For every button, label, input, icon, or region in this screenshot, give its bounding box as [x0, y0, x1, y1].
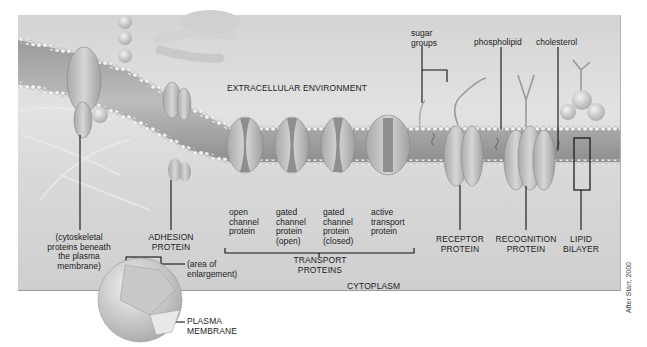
phospholipid-label: phospholipid [474, 38, 522, 48]
cytoskeletal-proteins-label: (cytoskeletal proteins beneath the plasm… [40, 233, 118, 271]
gated-channel-open-label: gated channel protein (open) [276, 208, 306, 246]
area-of-enlargement-label: (area of enlargement) [187, 260, 237, 279]
gated-channel-closed-icon [321, 117, 355, 180]
recognition-protein-icon [504, 75, 555, 190]
source-credit: After Starr, 2000 [625, 262, 632, 313]
open-channel-protein-label: open channel protein [229, 208, 259, 237]
gated-channel-open-icon [275, 117, 309, 185]
plasma-membrane-label: PLASMA MEMBRANE [187, 317, 237, 336]
active-transport-protein-label: active transport protein [371, 208, 405, 237]
open-channel-protein-icon [227, 117, 263, 173]
glycoprotein-chain-icon [118, 15, 132, 63]
cholesterol-label: cholesterol [536, 38, 577, 48]
receptor-protein-label: RECEPTOR PROTEIN [433, 235, 487, 254]
recognition-protein-label: RECOGNITION PROTEIN [494, 235, 558, 254]
active-transport-protein-icon [366, 115, 410, 175]
extracellular-environment-label: EXTRACELLULAR ENVIRONMENT [227, 84, 367, 94]
membrane-illustration [0, 0, 647, 347]
gated-channel-closed-label: gated channel protein (closed) [323, 208, 353, 246]
cytoplasm-label: CYTOPLASM [347, 282, 400, 292]
adhesion-protein-label: ADHESION PROTEIN [146, 233, 196, 252]
sugar-groups-label: sugar groups [411, 29, 437, 48]
lipid-bilayer-label: LIPID BILAYER [561, 235, 601, 254]
transport-proteins-label: TRANSPORT PROTEINS [288, 256, 352, 275]
